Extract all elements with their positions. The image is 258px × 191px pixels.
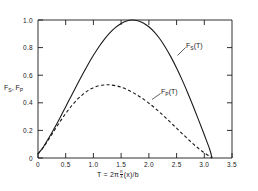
y-axis-title-sub-s: S (8, 87, 11, 93)
y-tick-label-2: 0.4 (13, 99, 33, 106)
series-fp-label-sub: P (165, 91, 168, 97)
x-axis-title-suffix: (x)/b (124, 171, 139, 178)
series-fs-label-post: (T) (194, 42, 203, 49)
x-tick-label-7: 3.5 (220, 161, 244, 168)
y-axis-title-sub-p: P (20, 87, 23, 93)
y-axis-title: FS, FP (4, 84, 23, 91)
series-fs-label-sub: S (190, 45, 193, 51)
x-tick-label-2: 1.0 (81, 161, 105, 168)
fp-leader-line (152, 94, 161, 100)
y-axis-ticks-right (227, 48, 232, 131)
axis-frame (38, 20, 232, 158)
x-tick-label-0: 0 (26, 161, 50, 168)
y-axis-title-f2: , F (12, 84, 20, 91)
x-tick-label-6: 3.0 (192, 161, 216, 168)
x-axis-title-fraction: nλ (120, 170, 124, 181)
x-tick-label-3: 1.5 (109, 161, 133, 168)
y-axis-ticks (38, 20, 43, 158)
y-tick-label-4: 0.8 (13, 44, 33, 51)
y-tick-label-5: 1.0 (13, 17, 33, 24)
x-axis-ticks-top (66, 20, 205, 25)
series-fs-label: FS(T) (186, 42, 203, 49)
series-fp-label-post: (T) (169, 88, 178, 95)
x-tick-label-5: 2.5 (165, 161, 189, 168)
x-axis-title-prefix: T = 2π (97, 171, 119, 178)
x-axis-title-frac-denominator: λ (120, 175, 124, 180)
y-tick-label-0: 0 (13, 155, 33, 162)
series-fp-label: FP(T) (161, 88, 178, 95)
y-tick-label-1: 0.2 (13, 127, 33, 134)
y-tick-label-3: 0.6 (13, 72, 33, 79)
x-tick-label-4: 2.0 (137, 161, 161, 168)
x-axis-ticks (38, 153, 232, 158)
chart-figure: 0 0.5 1.0 1.5 2.0 2.5 3.0 3.5 0 0.2 0.4 … (0, 0, 258, 191)
x-axis-title: T = 2πnλ(x)/b (97, 170, 139, 181)
fs-leader-line (178, 48, 186, 56)
series-fp-curve (38, 85, 212, 158)
x-tick-label-1: 0.5 (54, 161, 78, 168)
